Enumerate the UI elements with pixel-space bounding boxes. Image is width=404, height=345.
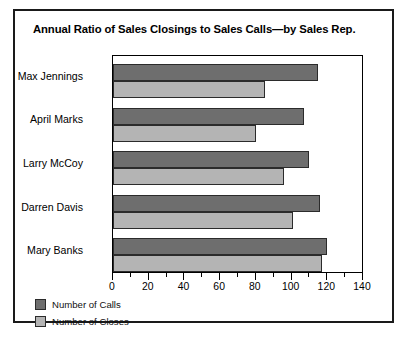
x-tick-minor: [166, 273, 167, 277]
legend-item: Number of Closes: [35, 314, 129, 329]
x-tick-label: 80: [249, 281, 261, 292]
x-tick-label: 0: [109, 281, 115, 292]
x-tick-minor: [344, 273, 345, 277]
bar-closes: [113, 168, 284, 185]
bar-group: [113, 100, 362, 144]
x-tick-major: [326, 273, 327, 280]
x-tick-minor: [273, 273, 274, 277]
x-tick-minor: [237, 273, 238, 277]
bar-group: [113, 230, 362, 274]
legend-label: Number of Calls: [52, 299, 121, 310]
y-axis-label: April Marks: [30, 113, 83, 125]
y-axis-label: Mary Banks: [27, 244, 83, 256]
bar-calls: [113, 108, 304, 125]
legend-label: Number of Closes: [52, 316, 129, 327]
page-title: Annual Ratio of Sales Closings to Sales …: [33, 23, 355, 35]
x-tick-label: 20: [142, 281, 154, 292]
bar-closes: [113, 212, 293, 229]
y-axis-label: Darren Davis: [21, 201, 83, 213]
x-tick-label: 140: [353, 281, 370, 292]
bar-group: [113, 187, 362, 231]
x-tick-major: [112, 273, 113, 280]
x-tick-label: 40: [178, 281, 190, 292]
x-tick-minor: [201, 273, 202, 277]
x-axis: 020406080100120140: [112, 273, 363, 303]
bar-group: [113, 56, 362, 100]
bars-container: [113, 56, 362, 272]
legend-swatch-closes: [35, 316, 46, 327]
x-tick-major: [148, 273, 149, 280]
x-tick-minor: [130, 273, 131, 277]
bar-closes: [113, 81, 265, 98]
y-axis-label: Max Jennings: [18, 70, 83, 82]
x-tick-major: [362, 273, 363, 280]
x-tick-major: [291, 273, 292, 280]
x-tick-minor: [308, 273, 309, 277]
x-tick-label: 60: [213, 281, 225, 292]
x-tick-major: [183, 273, 184, 280]
bar-calls: [113, 195, 320, 212]
legend-swatch-calls: [35, 299, 46, 310]
x-tick-major: [255, 273, 256, 280]
x-tick-label: 120: [318, 281, 335, 292]
bar-group: [113, 143, 362, 187]
plot-area: [112, 55, 363, 273]
legend-item: Number of Calls: [35, 297, 129, 312]
y-axis-label: Larry McCoy: [23, 157, 83, 169]
bar-calls: [113, 238, 327, 255]
x-tick-label: 100: [282, 281, 299, 292]
bar-calls: [113, 151, 309, 168]
figure-frame: Annual Ratio of Sales Closings to Sales …: [13, 9, 394, 323]
bar-calls: [113, 64, 318, 81]
bar-closes: [113, 255, 322, 272]
x-tick-major: [219, 273, 220, 280]
chart-legend: Number of CallsNumber of Closes: [35, 297, 129, 331]
bar-closes: [113, 125, 256, 142]
